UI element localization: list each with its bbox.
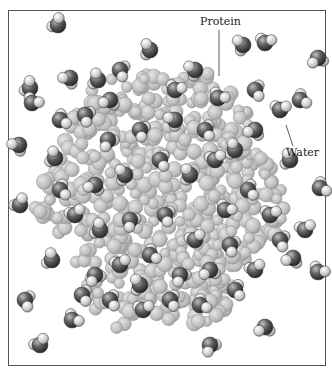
hydrogen-atom bbox=[321, 185, 332, 196]
hydrogen-atom bbox=[22, 301, 33, 312]
protein-atom bbox=[272, 194, 282, 204]
hydrogen-atom bbox=[184, 61, 195, 72]
water-molecule bbox=[310, 261, 331, 280]
hydrogen-atom bbox=[34, 97, 45, 108]
hydrogen-atom bbox=[17, 193, 28, 204]
hydrogen-atom bbox=[24, 76, 35, 87]
protein-atom bbox=[128, 243, 142, 257]
hydrogen-atom bbox=[61, 118, 72, 129]
hydrogen-atom bbox=[320, 266, 331, 277]
hydrogen-atom bbox=[80, 296, 91, 307]
protein-atom bbox=[76, 151, 89, 164]
hydrogen-atom bbox=[204, 130, 215, 141]
hydrogen-atom bbox=[74, 204, 85, 215]
hydrogen-atom bbox=[173, 276, 184, 287]
hydrogen-atom bbox=[141, 39, 152, 50]
hydrogen-atom bbox=[281, 101, 292, 112]
hydrogen-atom bbox=[83, 181, 94, 192]
protein-atom bbox=[201, 67, 214, 80]
protein-atom bbox=[240, 247, 251, 258]
protein-atom bbox=[254, 152, 267, 165]
hydrogen-atom bbox=[266, 35, 277, 46]
hydrogen-atom bbox=[281, 255, 292, 266]
hydrogen-atom bbox=[243, 126, 254, 137]
hydrogen-atom bbox=[248, 189, 259, 200]
hydrogen-atom bbox=[226, 246, 237, 257]
protein-atom bbox=[65, 163, 79, 177]
protein-atom bbox=[131, 154, 146, 169]
hydrogen-atom bbox=[227, 138, 238, 149]
hydrogen-atom bbox=[277, 241, 288, 252]
hydrogen-atom bbox=[98, 97, 109, 108]
hydrogen-atom bbox=[124, 222, 135, 233]
protein-atom bbox=[152, 232, 167, 247]
protein-atom bbox=[243, 232, 254, 243]
hydrogen-atom bbox=[254, 259, 265, 270]
hydrogen-atom bbox=[215, 150, 226, 161]
hydrogen-atom bbox=[307, 57, 318, 68]
protein-atom bbox=[114, 278, 125, 289]
hydrogen-atom bbox=[38, 333, 49, 344]
hydrogen-atom bbox=[58, 72, 69, 83]
protein-label: Protein bbox=[200, 15, 241, 28]
protein-atom bbox=[153, 279, 168, 294]
hydrogen-atom bbox=[130, 274, 141, 285]
hydrogen-atom bbox=[151, 253, 162, 264]
water-label: Water bbox=[286, 146, 319, 159]
hydrogen-atom bbox=[86, 276, 97, 287]
hydrogen-atom bbox=[203, 346, 214, 357]
hydrogen-atom bbox=[162, 216, 173, 227]
protein-atom bbox=[178, 133, 191, 146]
hydrogen-atom bbox=[253, 91, 264, 102]
hydrogen-atom bbox=[227, 204, 238, 215]
protein-atom bbox=[75, 138, 88, 151]
protein-atom bbox=[246, 218, 261, 233]
hydrogen-atom bbox=[201, 302, 212, 313]
hydrogen-atom bbox=[120, 255, 131, 266]
protein-atom bbox=[194, 92, 208, 106]
protein-atom bbox=[107, 239, 122, 254]
protein-atom bbox=[111, 322, 123, 334]
protein-atom bbox=[93, 287, 104, 298]
protein-atom bbox=[112, 196, 128, 212]
hydrogen-atom bbox=[109, 300, 120, 311]
protein-atom bbox=[199, 175, 215, 191]
hydrogen-atom bbox=[305, 220, 316, 231]
hydrogen-atom bbox=[100, 141, 111, 152]
hydrogen-atom bbox=[232, 35, 243, 46]
hydrogen-atom bbox=[301, 97, 312, 108]
hydrogen-atom bbox=[199, 269, 210, 280]
protein-atom bbox=[260, 169, 270, 179]
protein-atom bbox=[105, 168, 116, 179]
protein-atom bbox=[121, 81, 132, 92]
protein-atom bbox=[89, 151, 101, 163]
hydrogen-atom bbox=[60, 189, 71, 200]
protein-atom bbox=[36, 174, 51, 189]
protein-atom bbox=[159, 170, 172, 183]
hydrogen-atom bbox=[158, 161, 169, 172]
protein-atom bbox=[130, 106, 141, 117]
protein-atom bbox=[139, 74, 149, 84]
hydrogen-atom bbox=[53, 13, 64, 24]
protein-atom bbox=[191, 314, 205, 328]
protein-atom bbox=[118, 97, 133, 112]
protein-atom bbox=[208, 190, 220, 202]
protein-atom bbox=[33, 204, 47, 218]
protein-atom bbox=[226, 226, 237, 237]
hydrogen-atom bbox=[90, 68, 101, 79]
protein-atom bbox=[52, 212, 63, 223]
protein-atom bbox=[186, 144, 201, 159]
protein-atom bbox=[162, 312, 175, 325]
hydrogen-atom bbox=[136, 131, 147, 142]
hydrogen-atom bbox=[271, 206, 282, 217]
hydrogen-atom bbox=[168, 301, 179, 312]
hydrogen-atom bbox=[81, 116, 92, 127]
hydrogen-atom bbox=[181, 164, 192, 175]
hydrogen-atom bbox=[93, 218, 104, 229]
protein-atom bbox=[227, 173, 243, 189]
hydrogen-atom bbox=[48, 146, 59, 157]
hydrogen-atom bbox=[163, 112, 174, 123]
hydrogen-atom bbox=[176, 82, 187, 93]
hydrogen-atom bbox=[220, 92, 231, 103]
hydrogen-atom bbox=[45, 248, 56, 259]
